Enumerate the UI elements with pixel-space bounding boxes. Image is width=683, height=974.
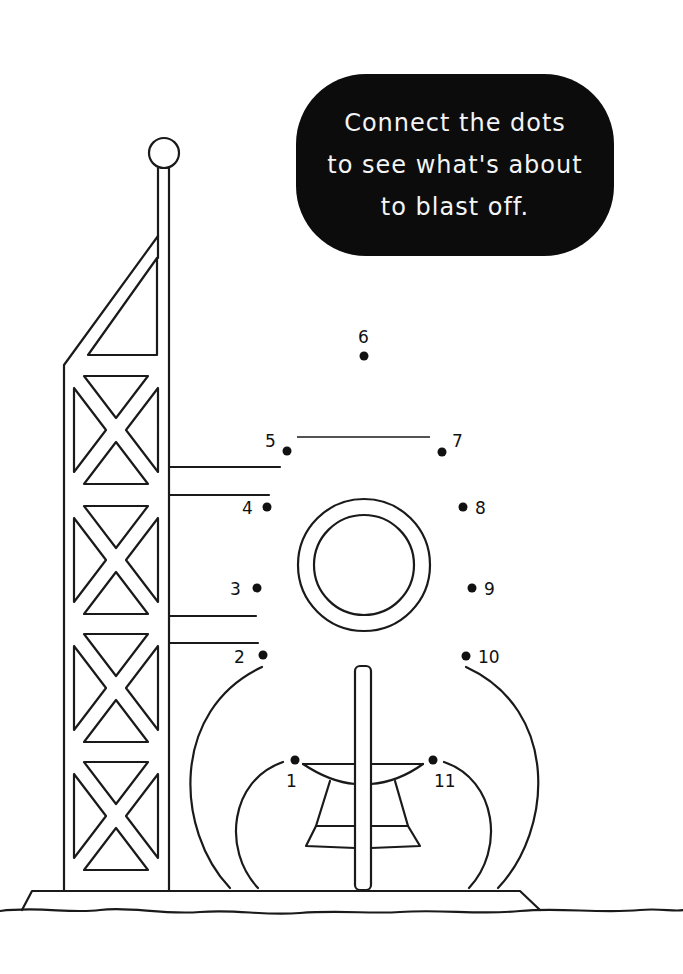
instruction-bubble: Connect the dots to see what's about to … [296,74,614,256]
dot-10: 10 [462,647,500,667]
worksheet-page: 1 2 3 4 5 6 7 8 [0,0,683,974]
dot-1: 1 [286,756,300,792]
launch-platform [0,891,683,914]
svg-text:1: 1 [286,771,297,791]
svg-text:8: 8 [475,498,486,518]
svg-text:7: 7 [452,431,463,451]
dot-11: 11 [429,756,456,792]
dot-6: 6 [358,327,369,361]
svg-text:4: 4 [242,498,253,518]
svg-text:3: 3 [230,579,241,599]
instruction-line-1: Connect the dots [344,102,566,144]
svg-text:10: 10 [478,647,500,667]
instruction-line-3: to blast off. [381,186,529,228]
dot-2: 2 [234,647,268,667]
tower-panel [74,762,158,870]
dot-7: 7 [438,431,463,457]
dot-5: 5 [265,431,292,456]
dot-8: 8 [459,498,486,518]
dot-9: 9 [468,579,495,599]
tower-panel [74,506,158,614]
tower-panel [74,376,158,484]
dot-3: 3 [230,579,262,599]
dot-4: 4 [242,498,272,518]
svg-text:11: 11 [434,771,456,791]
instruction-line-2: to see what's about [327,144,582,186]
tower-panel [74,634,158,742]
svg-text:2: 2 [234,647,245,667]
svg-text:5: 5 [265,431,276,451]
svg-text:6: 6 [358,327,369,347]
svg-text:9: 9 [484,579,495,599]
